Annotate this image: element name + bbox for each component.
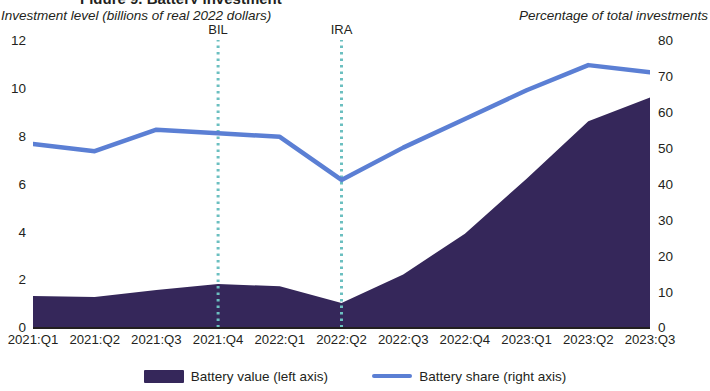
plot-svg [33,40,650,327]
x-axis-tick: 2021:Q3 [131,332,182,347]
x-axis-tick: 2021:Q1 [8,332,59,347]
left-axis-title: Investment level (billions of real 2022 … [1,8,271,23]
x-axis-line [33,327,650,329]
right-axis-tick: 10 [658,286,688,300]
x-axis-tick: 2022:Q2 [316,332,367,347]
right-axis-tick: 80 [658,34,688,48]
area-swatch-icon [144,370,184,383]
right-axis-tick: 70 [658,70,688,84]
x-axis-tick: 2022:Q1 [255,332,306,347]
x-axis-tick: 2021:Q2 [69,332,120,347]
annotation-lines [218,40,341,327]
figure-title: Figure 9. Battery investment [80,0,480,4]
chart-legend: Battery value (left axis) Battery share … [0,364,710,388]
x-axis-tick: 2023:Q2 [563,332,614,347]
line-swatch-icon [372,374,412,378]
plot-area [33,40,650,327]
x-axis-tick: 2023:Q1 [501,332,552,347]
annotation-label-bil: BIL [208,22,228,37]
x-axis-tick: 2022:Q3 [378,332,429,347]
chart-figure: Figure 9. Battery investment Investment … [0,0,710,391]
left-axis-tick: 2 [0,273,26,287]
right-axis-tick: 60 [658,106,688,120]
right-axis-title: Percentage of total investments [519,8,708,23]
right-axis-tick: 50 [658,142,688,156]
right-axis-tick: 30 [658,214,688,228]
x-axis-tick: 2021:Q4 [193,332,244,347]
legend-item-battery-value: Battery value (left axis) [144,369,328,384]
x-axis-tick-group: 2021:Q12021:Q22021:Q32021:Q42022:Q12022:… [0,332,710,352]
legend-item-battery-share: Battery share (right axis) [372,369,566,384]
x-axis-tick: 2022:Q4 [440,332,491,347]
right-axis-tick: 20 [658,250,688,264]
x-axis-tick: 2023:Q3 [625,332,676,347]
left-axis-tick: 4 [0,226,26,240]
left-axis-tick: 6 [0,178,26,192]
right-axis-tick: 40 [658,178,688,192]
legend-label: Battery value (left axis) [191,369,328,384]
left-axis-tick: 8 [0,130,26,144]
left-axis-tick: 10 [0,82,26,96]
legend-label: Battery share (right axis) [419,369,566,384]
left-axis-tick: 12 [0,34,26,48]
annotation-label-ira: IRA [331,22,353,37]
